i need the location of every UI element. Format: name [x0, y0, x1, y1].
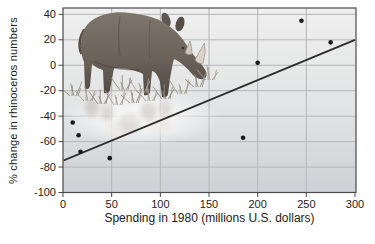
x-axis-title: Spending in 1980 (millions U.S. dollars) — [63, 211, 356, 225]
y-tick-label: 0 — [50, 59, 56, 71]
y-tick-labels: 40200-20-40-60-80-100 — [34, 8, 56, 198]
y-tick-label: -40 — [40, 110, 56, 122]
y-tick-label: -20 — [40, 84, 56, 96]
scatter-point — [299, 18, 304, 23]
y-axis-title: % change in rhinoceros numbers — [7, 6, 22, 196]
scatter-point — [255, 60, 260, 65]
x-tick-labels: 050100150200250300 — [60, 198, 364, 210]
y-tick-label: 40 — [44, 8, 56, 20]
scatter-point — [241, 135, 246, 140]
y-tick-label: -60 — [40, 135, 56, 147]
rhino-conservation-figure: 050100150200250300 40200-20-40-60-80-100… — [0, 0, 375, 244]
scatter-point — [78, 149, 83, 154]
scatter-point — [328, 40, 333, 45]
x-tick-label: 300 — [346, 198, 364, 210]
y-tick-label: -100 — [34, 186, 56, 198]
rhino-scatter-chart: 050100150200250300 40200-20-40-60-80-100 — [0, 0, 375, 244]
x-tick-label: 250 — [297, 198, 315, 210]
x-tick-label: 50 — [106, 198, 118, 210]
x-tick-label: 100 — [151, 198, 169, 210]
x-tick-label: 200 — [248, 198, 266, 210]
y-tick-label: 20 — [44, 33, 56, 45]
scatter-point — [76, 133, 81, 138]
x-tick-label: 0 — [60, 198, 66, 210]
y-tick-label: -80 — [40, 161, 56, 173]
scatter-point — [107, 156, 112, 161]
x-tick-label: 150 — [200, 198, 218, 210]
scatter-point — [70, 120, 75, 125]
rhino-eye — [182, 47, 185, 50]
